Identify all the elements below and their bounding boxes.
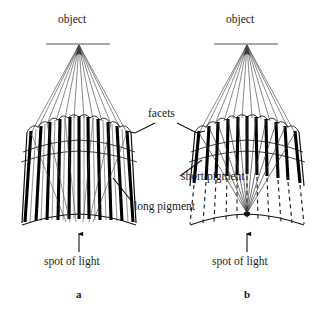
panel-a-long-pigment-bars — [25, 116, 133, 222]
facets-leader-left — [126, 123, 155, 133]
figure-canvas: object object facets short pigment long … — [0, 0, 325, 314]
panel-b-converging-rays — [199, 117, 295, 213]
panel-b-artwork — [189, 44, 305, 252]
facets-label: facets — [148, 107, 175, 119]
panel-b-spot-label: spot of light — [212, 255, 268, 267]
panel-a-object-label: object — [58, 13, 86, 25]
short-pigment-label: short pigment — [181, 170, 245, 182]
facets-leader-right — [177, 123, 205, 133]
panel-a-label: a — [76, 288, 82, 300]
panel-b-object-label: object — [226, 13, 254, 25]
panel-b-label: b — [244, 288, 250, 300]
long-pigment-label: long pigment — [134, 200, 195, 212]
panel-a-artwork — [21, 44, 137, 252]
panel-a-spot-label: spot of light — [44, 255, 100, 267]
